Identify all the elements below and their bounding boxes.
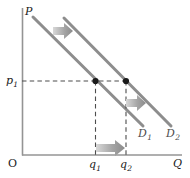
price-level-tick-label: p1	[6, 75, 18, 86]
price-level-subscript: 1	[13, 80, 18, 89]
equilibrium-point-e2	[123, 78, 129, 84]
demand-curve-d2	[64, 18, 171, 126]
q2-tick-label: q2	[120, 159, 132, 170]
quantity-increase-arrow	[96, 140, 125, 156]
price-axis-label: P	[25, 6, 32, 17]
price-level-base: p	[6, 74, 13, 87]
d2-subscript: 2	[175, 133, 180, 142]
d1-subscript: 1	[147, 133, 152, 142]
q1-tick-label: q1	[89, 159, 101, 170]
quantity-axis-label: Q	[173, 158, 182, 169]
equilibrium-point-e1	[92, 78, 98, 84]
q2-subscript: 2	[127, 164, 132, 173]
dashed-guides-group	[22, 81, 127, 155]
d1-base: D	[138, 127, 147, 140]
d2-base: D	[166, 127, 175, 140]
demand-shift-figure: P Q O p1 q1 q2 D1 D2	[0, 0, 190, 178]
figure-canvas	[0, 0, 190, 178]
demand-curve-d1-label: D1	[138, 128, 152, 139]
q2-base: q	[120, 158, 127, 171]
demand-curve-d2-label: D2	[166, 128, 180, 139]
origin-label: O	[8, 158, 17, 169]
q1-base: q	[89, 158, 96, 171]
demand-curve-d1	[33, 17, 143, 126]
q1-subscript: 1	[96, 164, 101, 173]
